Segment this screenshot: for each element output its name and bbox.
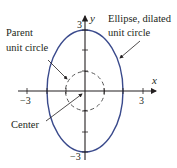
parent-circle-label-line1: Parent: [6, 27, 33, 38]
diagram-canvas: x y −3 3 3 −3 Parent unit circle Ellipse…: [0, 0, 177, 168]
center-pointer-arrow: [46, 94, 82, 121]
parent-circle-label-line2: unit circle: [6, 42, 49, 53]
y-tick-label-3: 3: [77, 19, 82, 30]
parent-circle-pointer-arrow: [48, 60, 67, 79]
ellipse-label-line1: Ellipse, dilated: [108, 13, 172, 24]
x-tick-label-3: 3: [139, 95, 144, 106]
ellipse-pointer-arrow: [120, 41, 140, 58]
y-axis-label: y: [89, 12, 95, 24]
ellipse-label-line2: unit circle: [108, 27, 151, 38]
y-tick-label-neg3: −3: [70, 151, 81, 162]
x-axis-label: x: [151, 74, 157, 86]
center-label: Center: [11, 119, 39, 130]
x-tick-label-neg3: −3: [20, 95, 31, 106]
